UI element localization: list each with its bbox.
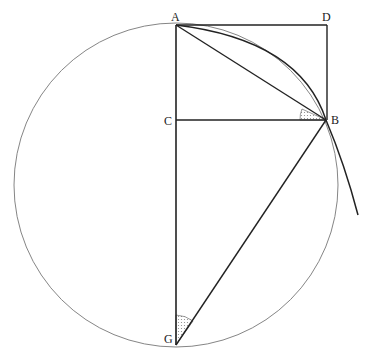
segment-bg	[176, 120, 326, 345]
label-g: G	[164, 332, 173, 346]
geometry-diagram: A D C B G	[0, 0, 365, 351]
label-b: B	[331, 113, 339, 127]
segment-ab	[176, 25, 326, 120]
label-c: C	[164, 114, 172, 128]
label-d: D	[322, 10, 331, 24]
label-a: A	[171, 10, 180, 24]
